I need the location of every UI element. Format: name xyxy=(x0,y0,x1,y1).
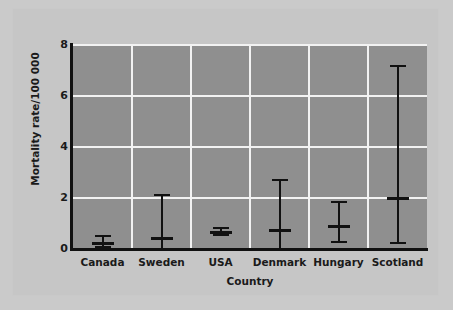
errorbar-mean-marker xyxy=(328,225,350,228)
y-axis-spine xyxy=(70,43,73,251)
errorbar-stem xyxy=(397,65,399,244)
errorbar-upper-cap xyxy=(154,194,170,196)
x-tick-label-hungary: Hungary xyxy=(309,254,368,272)
x-tick-label-usa: USA xyxy=(191,254,250,272)
errorbar-canada xyxy=(73,45,132,249)
errorbar-mean-marker xyxy=(210,231,232,234)
y-axis-title: Mortality rate/100 000 xyxy=(29,44,41,194)
x-axis-spine xyxy=(70,248,428,251)
errorbar-stem xyxy=(279,179,281,249)
errorbar-upper-cap xyxy=(272,179,288,181)
errorbar-usa xyxy=(191,45,250,249)
plot-area xyxy=(73,45,427,249)
errorbar-lower-cap xyxy=(213,234,229,236)
errorbar-stem xyxy=(338,201,340,243)
errorbar-upper-cap xyxy=(213,227,229,229)
x-tick-label-scotland: Scotland xyxy=(368,254,427,272)
errorbar-hungary xyxy=(309,45,368,249)
errorbar-sweden xyxy=(132,45,191,249)
errorbar-mean-marker xyxy=(269,229,291,232)
errorbar-upper-cap xyxy=(390,65,406,67)
y-tick-label-8: 8 xyxy=(46,39,68,50)
errorbar-mean-marker xyxy=(387,197,409,200)
y-tick-label-0: 0 xyxy=(46,243,68,254)
x-axis-tick-labels: CanadaSwedenUSADenmarkHungaryScotland xyxy=(73,254,427,272)
y-tick-label-6: 6 xyxy=(46,90,68,101)
errorbar-mean-marker xyxy=(151,237,173,240)
errorbar-upper-cap xyxy=(331,201,347,203)
errorbar-lower-cap xyxy=(390,242,406,244)
errorbar-scotland xyxy=(368,45,427,249)
errorbar-stem xyxy=(161,194,163,249)
y-tick-label-4: 4 xyxy=(46,141,68,152)
y-tick-label-2: 2 xyxy=(46,192,68,203)
x-tick-label-canada: Canada xyxy=(73,254,132,272)
figure-card: 02468 Mortality rate/100 000 CanadaSwede… xyxy=(13,9,438,295)
x-tick-label-denmark: Denmark xyxy=(250,254,309,272)
y-axis-tick-labels: 02468 xyxy=(43,9,68,310)
x-axis-title: Country xyxy=(73,275,427,287)
errorbar-lower-cap xyxy=(331,241,347,243)
errorbar-upper-cap xyxy=(95,235,111,237)
errorbar-mean-marker xyxy=(92,242,114,245)
errorbar-denmark xyxy=(250,45,309,249)
figure-root: 02468 Mortality rate/100 000 CanadaSwede… xyxy=(0,0,453,310)
x-tick-label-sweden: Sweden xyxy=(132,254,191,272)
